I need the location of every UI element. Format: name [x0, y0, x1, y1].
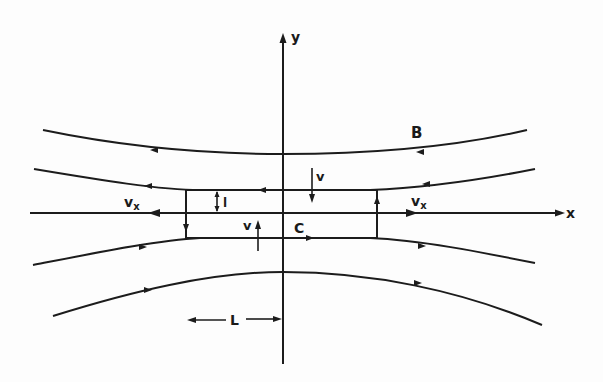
contour-label: C: [294, 220, 304, 236]
outflow-right-arrow-icon: [406, 209, 418, 217]
outflow-left-label: vx: [124, 194, 140, 212]
x-axis: [30, 209, 565, 217]
x-axis-label: x: [566, 205, 575, 221]
thickness-marker: [215, 191, 220, 212]
reconnection-diagram: y x B C: [0, 0, 603, 382]
field-line-upper-outer: [43, 130, 527, 155]
y-axis: [280, 33, 287, 364]
outflow-right-label: vx: [411, 193, 427, 211]
length-label: L: [230, 312, 239, 328]
field-line-lower-outer: [53, 272, 542, 325]
inflow-bottom-arrow: [255, 220, 261, 251]
inflow-top-arrow: [309, 168, 315, 203]
outflow-left-arrow-icon: [148, 209, 160, 217]
field-label-B: B: [411, 124, 422, 142]
diagram-canvas: y x B C: [0, 0, 603, 382]
thickness-label: l: [223, 196, 227, 210]
y-axis-label: y: [291, 29, 300, 45]
inflow-top-label: v: [316, 169, 325, 184]
inflow-bottom-label: v: [243, 218, 252, 233]
